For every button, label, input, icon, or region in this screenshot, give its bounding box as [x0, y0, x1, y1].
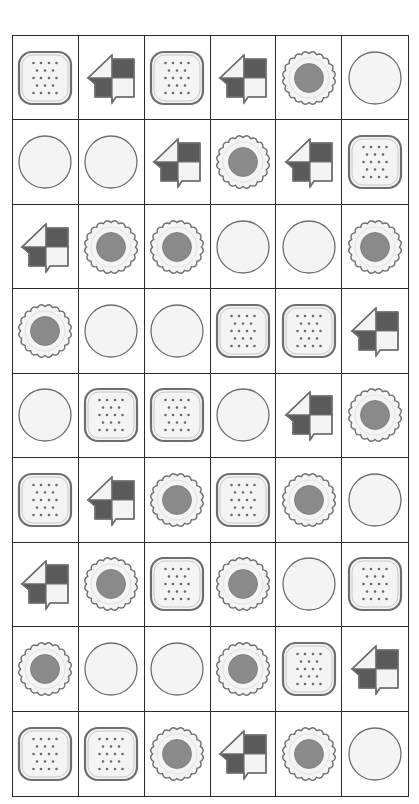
- tile-r2-c3[interactable]: [145, 120, 211, 204]
- tile-r1-c5[interactable]: [276, 36, 342, 120]
- tile-r7-c3[interactable]: [145, 543, 211, 627]
- tile-r9-c3[interactable]: [145, 712, 211, 796]
- cracker-icon: [148, 555, 206, 613]
- tile-r2-c2[interactable]: [79, 120, 145, 204]
- tile-r3-c4[interactable]: [211, 205, 277, 289]
- cracker-icon: [16, 725, 74, 783]
- flower-cookie-icon: [148, 218, 206, 276]
- tile-r6-c6[interactable]: [342, 458, 408, 542]
- tile-r7-c5[interactable]: [276, 543, 342, 627]
- tile-r5-c2[interactable]: [79, 374, 145, 458]
- cracker-icon: [16, 471, 74, 529]
- tile-r3-c5[interactable]: [276, 205, 342, 289]
- flower-cookie-icon: [214, 640, 272, 698]
- tile-r4-c4[interactable]: [211, 289, 277, 373]
- cracker-icon: [346, 555, 404, 613]
- tile-r9-c4[interactable]: [211, 712, 277, 796]
- flower-cookie-icon: [280, 49, 338, 107]
- tile-r8-c2[interactable]: [79, 627, 145, 711]
- flower-cookie-icon: [214, 555, 272, 613]
- flower-cookie-icon: [16, 302, 74, 360]
- cracker-icon: [280, 640, 338, 698]
- arrow-icon: [82, 471, 140, 529]
- tile-r9-c2[interactable]: [79, 712, 145, 796]
- plain-cookie-icon: [346, 471, 404, 529]
- tile-r2-c4[interactable]: [211, 120, 277, 204]
- plain-cookie-icon: [82, 133, 140, 191]
- plain-cookie-icon: [214, 218, 272, 276]
- tile-r4-c3[interactable]: [145, 289, 211, 373]
- tile-r9-c5[interactable]: [276, 712, 342, 796]
- tile-r2-c6[interactable]: [342, 120, 408, 204]
- plain-cookie-icon: [346, 49, 404, 107]
- cracker-icon: [16, 49, 74, 107]
- arrow-icon: [16, 218, 74, 276]
- tile-r3-c1[interactable]: [13, 205, 79, 289]
- tile-r3-c6[interactable]: [342, 205, 408, 289]
- arrow-icon: [214, 725, 272, 783]
- plain-cookie-icon: [82, 302, 140, 360]
- tile-r7-c6[interactable]: [342, 543, 408, 627]
- flower-cookie-icon: [280, 725, 338, 783]
- tile-r6-c3[interactable]: [145, 458, 211, 542]
- cracker-icon: [280, 302, 338, 360]
- tile-r8-c6[interactable]: [342, 627, 408, 711]
- tile-r5-c3[interactable]: [145, 374, 211, 458]
- plain-cookie-icon: [16, 133, 74, 191]
- plain-cookie-icon: [214, 386, 272, 444]
- arrow-icon: [214, 49, 272, 107]
- tile-r8-c1[interactable]: [13, 627, 79, 711]
- tile-r3-c3[interactable]: [145, 205, 211, 289]
- arrow-icon: [280, 386, 338, 444]
- tile-r7-c1[interactable]: [13, 543, 79, 627]
- tile-r1-c3[interactable]: [145, 36, 211, 120]
- tile-r1-c4[interactable]: [211, 36, 277, 120]
- tile-r1-c6[interactable]: [342, 36, 408, 120]
- plain-cookie-icon: [148, 640, 206, 698]
- cracker-icon: [346, 133, 404, 191]
- arrow-icon: [346, 640, 404, 698]
- tile-r7-c4[interactable]: [211, 543, 277, 627]
- tile-r4-c2[interactable]: [79, 289, 145, 373]
- tile-r2-c5[interactable]: [276, 120, 342, 204]
- tile-r9-c6[interactable]: [342, 712, 408, 796]
- flower-cookie-icon: [346, 386, 404, 444]
- tile-r9-c1[interactable]: [13, 712, 79, 796]
- tile-r6-c2[interactable]: [79, 458, 145, 542]
- tile-r5-c6[interactable]: [342, 374, 408, 458]
- tile-r8-c5[interactable]: [276, 627, 342, 711]
- tile-r4-c6[interactable]: [342, 289, 408, 373]
- flower-cookie-icon: [214, 133, 272, 191]
- flower-cookie-icon: [148, 725, 206, 783]
- tile-r4-c1[interactable]: [13, 289, 79, 373]
- plain-cookie-icon: [280, 218, 338, 276]
- cracker-icon: [148, 386, 206, 444]
- tile-r6-c4[interactable]: [211, 458, 277, 542]
- flower-cookie-icon: [82, 555, 140, 613]
- tile-r5-c1[interactable]: [13, 374, 79, 458]
- tile-r5-c5[interactable]: [276, 374, 342, 458]
- arrow-icon: [82, 49, 140, 107]
- tile-r8-c3[interactable]: [145, 627, 211, 711]
- tile-r5-c4[interactable]: [211, 374, 277, 458]
- tile-r4-c5[interactable]: [276, 289, 342, 373]
- plain-cookie-icon: [148, 302, 206, 360]
- cracker-icon: [148, 49, 206, 107]
- arrow-icon: [148, 133, 206, 191]
- tile-r8-c4[interactable]: [211, 627, 277, 711]
- tile-r3-c2[interactable]: [79, 205, 145, 289]
- plain-cookie-icon: [82, 640, 140, 698]
- tile-r2-c1[interactable]: [13, 120, 79, 204]
- tile-r6-c5[interactable]: [276, 458, 342, 542]
- cracker-icon: [214, 471, 272, 529]
- arrow-icon: [16, 555, 74, 613]
- tile-r6-c1[interactable]: [13, 458, 79, 542]
- cracker-icon: [82, 386, 140, 444]
- tile-r7-c2[interactable]: [79, 543, 145, 627]
- tile-r1-c2[interactable]: [79, 36, 145, 120]
- tile-r1-c1[interactable]: [13, 36, 79, 120]
- game-board: [12, 35, 409, 797]
- flower-cookie-icon: [280, 471, 338, 529]
- flower-cookie-icon: [148, 471, 206, 529]
- flower-cookie-icon: [346, 218, 404, 276]
